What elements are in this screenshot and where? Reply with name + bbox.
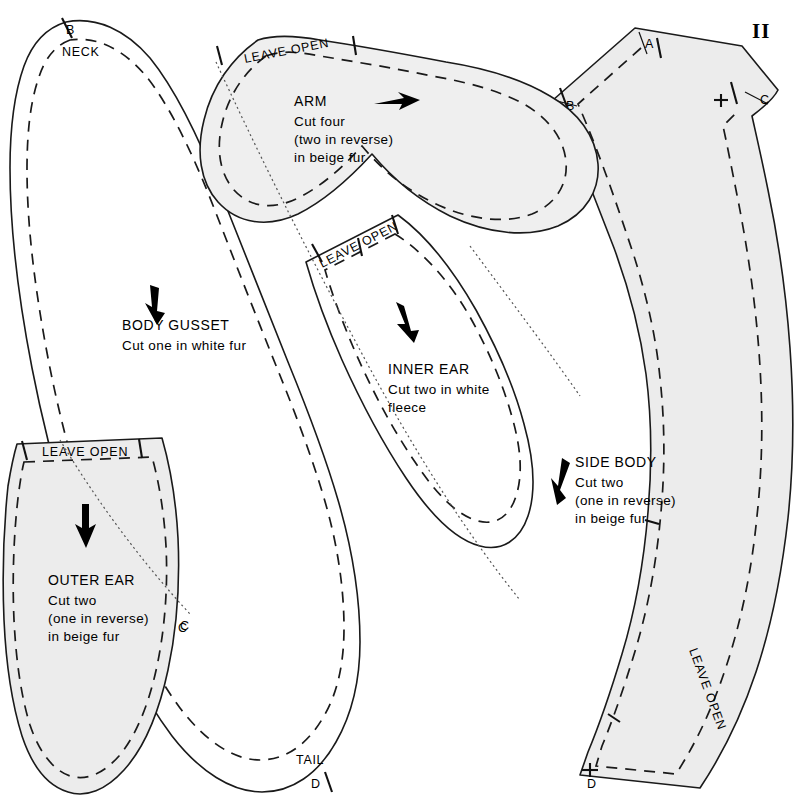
- arm-line3: in beige fur: [294, 150, 366, 165]
- pattern-sheet-canvas: A B C D LEAVE OPEN: [0, 0, 804, 804]
- inner-ear-line1: Cut two in white: [388, 382, 490, 397]
- arm-notch-1: [217, 46, 222, 65]
- piece-inner-ear[interactable]: LEAVE OPEN INNER EAR Cut two in white fl…: [306, 215, 533, 548]
- side-body-grain-arrow: [551, 458, 570, 505]
- inner-ear-grain-arrow: [396, 302, 419, 343]
- side-body-line3: in beige fur: [575, 511, 647, 526]
- notch-label-b: B: [66, 23, 74, 37]
- notch-label-c: C: [180, 619, 189, 633]
- inner-ear-title: INNER EAR: [388, 361, 470, 377]
- arm-line2: (two in reverse): [294, 132, 393, 147]
- notch-label-c3: C: [760, 93, 769, 107]
- tail-label: TAIL: [296, 753, 324, 767]
- body-gusset-title: BODY GUSSET: [122, 317, 229, 333]
- arm-fill: [200, 36, 598, 233]
- neck-label: NECK: [62, 45, 100, 59]
- body-gusset-line1: Cut one in white fur: [122, 338, 246, 353]
- outer-ear-title: OUTER EAR: [48, 572, 135, 588]
- notch-label-d: D: [311, 777, 320, 791]
- piece-arm[interactable]: LEAVE OPEN ARM Cut four (two in reverse)…: [200, 36, 598, 233]
- notch-label-d2: D: [587, 777, 596, 791]
- side-body-line1: Cut two: [575, 475, 624, 490]
- side-body-line2: (one in reverse): [575, 493, 676, 508]
- pattern-sheet-page: A B C D LEAVE OPEN: [0, 0, 804, 804]
- arm-title: ARM: [294, 93, 327, 109]
- fold-line-side-body-overlap: [470, 246, 580, 396]
- outer-ear-line3: in beige fur: [48, 629, 120, 644]
- inner-ear-seamline: [325, 234, 520, 522]
- outer-ear-line1: Cut two: [48, 593, 97, 608]
- body-gusset-notch-d: D: [311, 772, 332, 792]
- page-number: II: [752, 19, 770, 43]
- side-body-title: SIDE BODY: [575, 454, 657, 470]
- outer-ear-leave-open-label: LEAVE OPEN: [42, 445, 128, 459]
- notch-label-a: A: [645, 37, 654, 51]
- piece-outer-ear[interactable]: LEAVE OPEN OUTER EAR Cut two (one in rev…: [3, 438, 189, 794]
- arm-line1: Cut four: [294, 114, 345, 129]
- inner-ear-line2: fleece: [388, 400, 426, 415]
- outer-ear-line2: (one in reverse): [48, 611, 149, 626]
